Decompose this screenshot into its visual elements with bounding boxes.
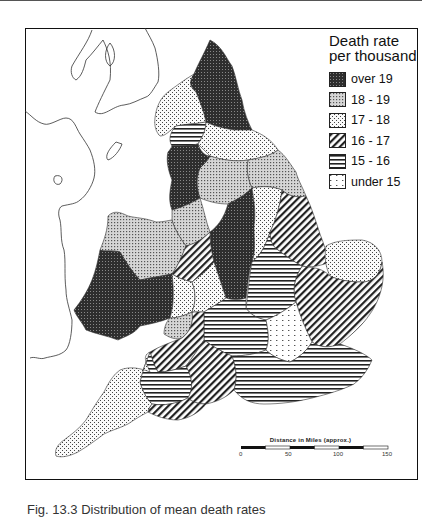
- legend-swatch-solid-dark: [329, 72, 346, 87]
- scale-tick-label: 100: [333, 451, 343, 457]
- legend-item-15-16: 15 - 16: [329, 151, 424, 172]
- legend-swatch-dense-dots: [329, 92, 346, 107]
- legend-label: 18 - 19: [351, 93, 390, 107]
- scale-bar: Distance in Miles (approx.) 0 50 100 150: [238, 437, 393, 461]
- scale-tick-label: 150: [382, 451, 392, 457]
- legend-item-16-17: 16 - 17: [329, 131, 424, 152]
- legend-swatch-dashed-dots: [329, 174, 346, 189]
- region-southwest: [55, 352, 152, 457]
- legend-label: 17 - 18: [351, 113, 390, 127]
- legend-title-line1: Death rate: [329, 33, 424, 48]
- anglesey-adjacent: [54, 176, 62, 185]
- scale-tick-label: 0: [239, 451, 242, 457]
- legend-label: 15 - 16: [351, 154, 390, 168]
- legend-item-under-15: under 15: [329, 172, 424, 193]
- legend-swatch-sparse-dots: [329, 113, 346, 128]
- legend-item-over-19: over 19: [329, 69, 424, 90]
- legend-swatch-horizontal-lines: [329, 154, 346, 169]
- legend-item-17-18: 17 - 18: [329, 110, 424, 131]
- legend-item-18-19: 18 - 19: [329, 90, 424, 111]
- scotland-coast: [71, 28, 159, 114]
- legend-title-line2: per thousand: [329, 48, 424, 63]
- legend-title: Death rate per thousand: [329, 33, 424, 63]
- legend-swatch-diagonal-hatch: [329, 133, 346, 148]
- legend-label: under 15: [351, 175, 400, 189]
- figure-caption: Fig. 13.3 Distribution of mean death rat…: [27, 502, 265, 517]
- legend: Death rate per thousand over 19 18 - 19 …: [329, 33, 424, 192]
- legend-label: over 19: [351, 72, 393, 86]
- scale-title: Distance in Miles (approx.): [228, 437, 393, 443]
- region-norfolk: [325, 240, 382, 282]
- scale-ticks: 0 50 100 150: [238, 451, 393, 461]
- scale-tick-label: 50: [285, 451, 292, 457]
- legend-label: 16 - 17: [351, 134, 390, 148]
- isle-of-man: [107, 142, 122, 160]
